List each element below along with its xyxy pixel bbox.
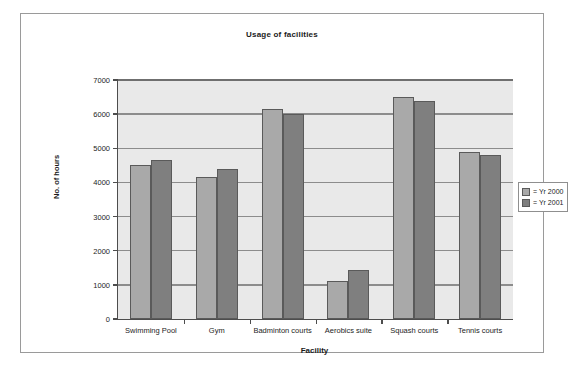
y-axis-label: 1000 (93, 280, 110, 289)
x-axis-tick (316, 319, 318, 324)
bar (130, 165, 151, 319)
x-axis-category-label: Squash courts (390, 326, 438, 335)
y-axis-label: 6000 (93, 110, 110, 119)
bar (217, 169, 238, 319)
y-axis-label: 2000 (93, 246, 110, 255)
bar-group (250, 80, 316, 319)
bar (327, 281, 348, 319)
figure-frame: Usage of facilities No. of hours 0100020… (20, 13, 544, 353)
bars-layer (118, 80, 513, 319)
y-axis-label: 3000 (93, 212, 110, 221)
bar (393, 97, 414, 319)
bar (151, 160, 172, 319)
y-axis-label: 4000 (93, 178, 110, 187)
legend-swatch-icon (522, 199, 530, 207)
bar (283, 114, 304, 319)
y-axis-label: 5000 (93, 144, 110, 153)
legend-item: = Yr 2000 (522, 186, 563, 197)
bar-group (184, 80, 250, 319)
plot-area: 01000200030004000500060007000 Swimming P… (117, 80, 513, 320)
bar-group (316, 80, 382, 319)
bar (262, 109, 283, 319)
bar (459, 152, 480, 319)
x-axis-category-label: Badminton courts (253, 326, 311, 335)
x-axis-category-label: Aerobics suite (325, 326, 372, 335)
legend-label: = Yr 2000 (533, 188, 563, 195)
bar-group (447, 80, 513, 319)
y-axis-title: No. of hours (52, 155, 61, 199)
x-axis-tick (447, 319, 449, 324)
x-axis-category-label: Gym (209, 326, 225, 335)
y-axis-label: 0 (106, 315, 110, 324)
x-axis-category-label: Swimming Pool (125, 326, 177, 335)
bar (196, 177, 217, 319)
x-axis-title: Facility (117, 346, 512, 355)
chart-title: Usage of facilities (21, 30, 543, 39)
bar (480, 155, 501, 319)
legend: = Yr 2000= Yr 2001 (518, 182, 568, 212)
bar-group (118, 80, 184, 319)
x-axis-tick (184, 319, 186, 324)
legend-swatch-icon (522, 188, 530, 196)
x-axis-tick (381, 319, 383, 324)
x-axis-tick (250, 319, 252, 324)
bar (348, 270, 369, 320)
y-axis-label: 7000 (93, 76, 110, 85)
legend-item: = Yr 2001 (522, 197, 563, 208)
bar (414, 101, 435, 320)
bar-group (381, 80, 447, 319)
x-axis-category-label: Tennis courts (458, 326, 502, 335)
legend-label: = Yr 2001 (533, 199, 563, 206)
